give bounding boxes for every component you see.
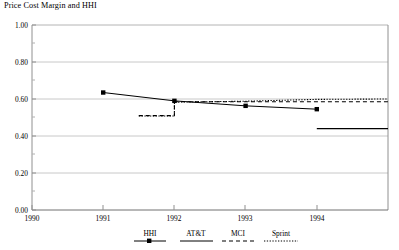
legend-swatch-hhi [134,239,166,243]
series-line [103,93,317,110]
legend-marker-square [147,239,151,243]
y-tick-label: 0.20 [15,169,28,178]
legend-label-sprint: Sprint [272,229,291,238]
y-tick-label: 0.80 [15,58,28,67]
data-point-marker [101,90,105,94]
x-tick-label: 1993 [238,214,253,223]
data-point-marker [315,107,319,111]
x-tick-label: 1990 [25,214,40,223]
gridlines [32,25,388,173]
series-mci [139,102,388,116]
x-tick-label: 1991 [96,214,111,223]
x-tick-label: 1994 [310,214,325,223]
chart-root: Price Cost Margin and HHI [0,0,399,250]
legend-label-hhi: HHI [143,229,157,238]
legend-label-mci: MCI [231,229,246,238]
y-axis-labels: 1.00 0.80 0.60 0.40 0.20 0.00 [15,21,28,215]
y-tick-marks [32,25,36,210]
data-series-layer [101,90,388,128]
y-tick-label: 0.60 [15,95,28,104]
series-line [139,102,388,116]
axis-frame [32,25,388,210]
y-tick-label: 0.40 [15,132,28,141]
data-point-marker [243,104,247,108]
x-tick-label: 1992 [167,214,182,223]
series-hhi [101,90,319,111]
y-tick-label: 1.00 [15,21,28,30]
chart-legend: HHI AT&T MCI Sprint [134,229,298,243]
legend-label-att: AT&T [186,229,206,238]
chart-plot: 1.00 0.80 0.60 0.40 0.20 0.00 1990 1991 … [0,0,399,250]
x-tick-marks [32,205,317,210]
x-axis-labels: 1990 1991 1992 1993 1994 [25,214,325,223]
